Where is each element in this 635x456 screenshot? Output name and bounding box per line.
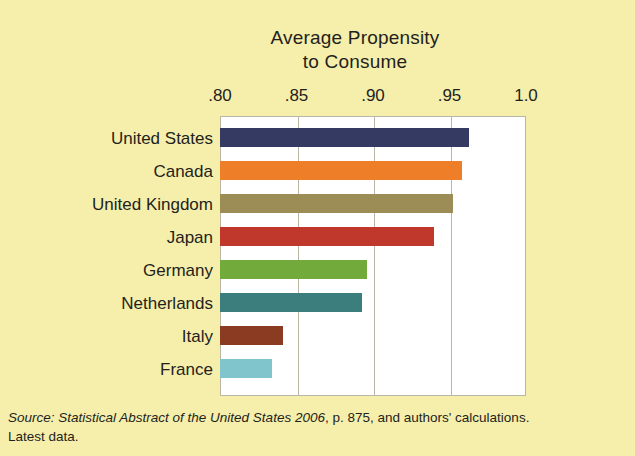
x-tick-label-2: .90	[361, 86, 385, 106]
bar-fill	[220, 194, 453, 213]
bar-canada	[220, 161, 462, 180]
bar-germany	[220, 260, 367, 279]
bar-fill	[220, 260, 367, 279]
y-axis-category-labels: United StatesCanadaUnited KingdomJapanGe…	[0, 116, 213, 396]
x-tick-label-4: 1.0	[514, 86, 538, 106]
bar-fill	[220, 326, 283, 345]
chart-title: Average Propensity to Consume	[180, 26, 530, 74]
category-label-2: United Kingdom	[0, 195, 213, 214]
chart-title-line-1: Average Propensity	[180, 26, 530, 50]
category-label-1: Canada	[0, 162, 213, 181]
source-note-line-2: Latest data.	[8, 427, 628, 446]
x-axis-tick-labels: .80.85.90.951.0	[0, 86, 635, 108]
bar-japan	[220, 227, 434, 246]
category-label-5: Netherlands	[0, 294, 213, 313]
figure-container: Average Propensity to Consume .80.85.90.…	[0, 0, 635, 456]
bar-fill	[220, 161, 462, 180]
x-tick-label-1: .85	[285, 86, 309, 106]
bar-united-states	[220, 128, 469, 147]
bar-series	[220, 116, 526, 396]
bar-fill	[220, 293, 362, 312]
chart-title-line-2: to Consume	[180, 50, 530, 74]
bar-netherlands	[220, 293, 362, 312]
bar-fill	[220, 359, 272, 378]
bar-fill	[220, 128, 469, 147]
category-label-6: Italy	[0, 327, 213, 346]
category-label-0: United States	[0, 129, 213, 148]
bar-fill	[220, 227, 434, 246]
source-note: Source: Statistical Abstract of the Unit…	[8, 408, 628, 446]
bar-france	[220, 359, 272, 378]
bar-italy	[220, 326, 283, 345]
x-tick-label-0: .80	[208, 86, 232, 106]
bar-united-kingdom	[220, 194, 453, 213]
source-note-italic: Source: Statistical Abstract of the Unit…	[8, 410, 325, 425]
category-label-4: Germany	[0, 261, 213, 280]
x-tick-label-3: .95	[438, 86, 462, 106]
category-label-3: Japan	[0, 228, 213, 247]
category-label-7: France	[0, 360, 213, 379]
source-note-roman: , p. 875, and authors' calculations.	[325, 410, 529, 425]
source-note-line-1: Source: Statistical Abstract of the Unit…	[8, 408, 628, 427]
